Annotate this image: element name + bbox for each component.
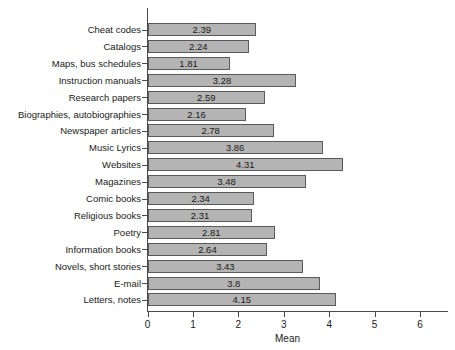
x-axis-tick-label: 6 [405,319,435,331]
x-axis-tick [420,312,421,317]
bar [148,175,306,188]
x-axis-tick-label: 2 [223,319,253,331]
bar [148,192,254,205]
x-axis-tick-label: 3 [269,319,299,331]
x-axis-tick [329,312,330,317]
category-label: Newspaper articles [60,125,141,136]
bar [148,124,274,137]
x-axis-tick [238,312,239,317]
x-axis-title: Mean [0,333,455,345]
category-label: Magazines [95,176,141,187]
bar [148,74,297,87]
category-label: Maps, bus schedules [52,58,141,69]
bar [148,209,253,222]
category-label: Cheat codes [88,24,141,35]
bar [148,243,268,256]
bar [148,40,250,53]
category-label: Catalogs [104,41,142,52]
bar [148,57,230,70]
bar [148,91,266,104]
category-label: Biographies, autobiographies [18,109,141,120]
bar [148,108,246,121]
category-label: Music Lyrics [89,142,141,153]
category-label: E-mail [114,278,141,289]
category-label: Letters, notes [83,294,141,305]
x-axis-tick-label: 1 [178,319,208,331]
bar [148,277,321,290]
category-label: Information books [65,244,141,255]
bar-chart: Cheat codes2.39Catalogs2.24Maps, bus sch… [0,0,455,350]
x-axis-tick [193,312,194,317]
x-axis-tick [375,312,376,317]
x-axis-tick [284,312,285,317]
bar [148,293,336,306]
category-label: Religious books [74,210,141,221]
bar [148,260,304,273]
category-label: Comic books [86,193,141,204]
x-axis-tick-label: 4 [314,319,344,331]
category-label: Websites [102,159,141,170]
bar [148,23,257,36]
bar [148,226,276,239]
category-label: Instruction manuals [59,75,141,86]
category-label: Poetry [114,227,141,238]
x-axis-tick-label: 0 [133,319,163,331]
x-axis-title-text: Mean [275,333,300,344]
category-label: Research papers [69,92,141,103]
category-label: Novels, short stories [55,261,141,272]
x-axis-tick [148,312,149,317]
x-axis-tick-label: 5 [360,319,390,331]
bar [148,141,323,154]
bar [148,158,344,171]
